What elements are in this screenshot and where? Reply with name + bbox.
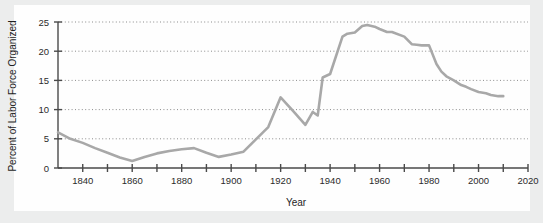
x-tick-label: 1940 [320,175,341,186]
y-tick-label: 20 [38,46,49,57]
axes-group [58,22,528,168]
x-tick-label: 1960 [369,175,390,186]
y-tick-label: 0 [44,163,49,174]
x-tick-label: 2000 [468,175,489,186]
gridlines-group [58,22,528,139]
x-tick-label: 1980 [418,175,439,186]
data-series-line [58,25,503,161]
y-tick-label: 25 [38,17,49,28]
x-tick-label: 1860 [122,175,143,186]
chart-figure: 0510152025 18401860188019001920194019601… [0,0,543,223]
x-tick-label: 1880 [171,175,192,186]
y-axis-title: Percent of Labor Force Organized [7,20,18,171]
y-tick-label: 15 [38,75,49,86]
y-tick-label: 10 [38,104,49,115]
x-tick-label: 2020 [517,175,538,186]
x-tick-label: 1900 [221,175,242,186]
line-chart: 0510152025 18401860188019001920194019601… [0,0,543,223]
x-tick-label: 1920 [270,175,291,186]
x-axis-title: Year [286,197,307,208]
x-tick-label: 1840 [72,175,93,186]
y-tick-label: 5 [44,133,49,144]
